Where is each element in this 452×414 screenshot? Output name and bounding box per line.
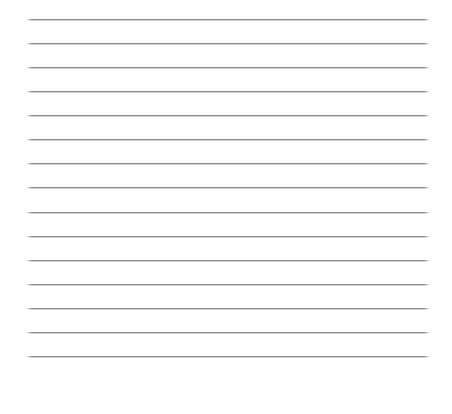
ruled-line xyxy=(27,308,429,310)
ruled-line xyxy=(27,43,429,45)
ruled-line xyxy=(27,67,429,69)
ruled-line xyxy=(27,332,429,334)
ruled-line xyxy=(27,356,429,358)
ruled-line xyxy=(27,212,429,214)
ruled-line xyxy=(27,187,429,189)
ruled-line xyxy=(27,115,429,117)
ruled-line xyxy=(27,284,429,286)
ruled-line xyxy=(27,163,429,165)
ruled-line xyxy=(27,139,429,141)
ruled-line xyxy=(27,91,429,93)
lined-paper-page xyxy=(0,0,452,414)
ruled-line xyxy=(27,19,429,21)
ruled-line xyxy=(27,236,429,238)
ruled-line xyxy=(27,260,429,262)
